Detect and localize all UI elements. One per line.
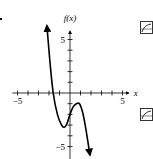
svg-text:x: x xyxy=(133,88,138,98)
svg-text:−5: −5 xyxy=(13,96,23,106)
axes xyxy=(12,31,129,159)
svg-text:5: 5 xyxy=(61,35,66,45)
svg-text:−5: −5 xyxy=(55,142,65,152)
axis-labels: −555−5f(x)x xyxy=(13,13,138,152)
function-graph: −555−5f(x)x xyxy=(0,0,153,159)
svg-text:f(x): f(x) xyxy=(64,13,77,23)
graph-thumbnail-icon[interactable] xyxy=(140,108,153,121)
graph-thumbnail-icon[interactable] xyxy=(140,21,153,34)
svg-text:5: 5 xyxy=(120,96,125,106)
